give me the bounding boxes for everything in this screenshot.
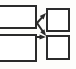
node-bottom-left[interactable]	[0, 35, 36, 61]
node-bottom-right[interactable]	[47, 36, 69, 59]
diagram-svg	[0, 0, 76, 69]
node-top-right[interactable]	[47, 9, 69, 31]
diagram-canvas	[0, 0, 76, 69]
node-top-left[interactable]	[0, 6, 36, 28]
